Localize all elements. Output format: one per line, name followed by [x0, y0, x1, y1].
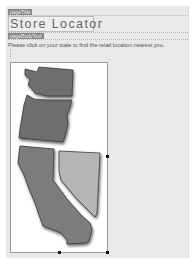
instruction-text: Please click on your state to find the r…	[8, 41, 164, 49]
page-title: Store Locator	[10, 16, 103, 32]
state-map	[10, 62, 108, 253]
resize-handle-corner[interactable]	[106, 251, 109, 254]
resize-handle-right[interactable]	[106, 155, 109, 158]
map-graphic	[11, 63, 107, 252]
guide-line	[10, 49, 11, 57]
resize-handle-bottom[interactable]	[58, 251, 61, 254]
state-washington[interactable]	[25, 67, 73, 96]
divider	[8, 39, 188, 40]
state-oregon[interactable]	[19, 95, 72, 142]
